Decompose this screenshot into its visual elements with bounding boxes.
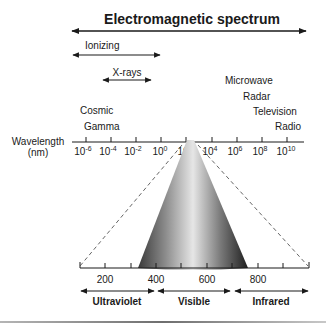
svg-text:1010: 1010: [277, 145, 296, 157]
microwave-label: Microwave: [225, 75, 273, 86]
diagram-title: Electromagnetic spectrum: [104, 11, 280, 27]
wavelength-axis-label: Wavelength: [12, 136, 64, 147]
infrared-label: Infrared: [252, 296, 289, 307]
svg-text:106: 106: [227, 145, 242, 157]
svg-text:108: 108: [252, 145, 267, 157]
cosmic-label: Cosmic: [80, 105, 113, 116]
svg-text:10-4: 10-4: [99, 145, 116, 157]
ionizing-label: Ionizing: [85, 40, 119, 51]
visible-zoom-tick-labels: 200 400 600 800: [97, 274, 267, 285]
svg-text:600: 600: [199, 274, 216, 285]
svg-text:10-2: 10-2: [124, 145, 141, 157]
wavelength-axis-unit: (nm): [28, 147, 49, 158]
xrays-label: X-rays: [113, 67, 142, 78]
radio-label: Radio: [275, 121, 302, 132]
svg-text:10-6: 10-6: [74, 145, 91, 157]
svg-text:200: 200: [97, 274, 114, 285]
svg-text:800: 800: [250, 274, 267, 285]
ultraviolet-label: Ultraviolet: [93, 296, 143, 307]
visible-light-cone: [138, 140, 248, 270]
radar-label: Radar: [243, 91, 271, 102]
bottom-rule: [0, 321, 326, 323]
svg-text:100: 100: [152, 145, 167, 157]
gamma-label: Gamma: [84, 121, 120, 132]
visible-label: Visible: [178, 296, 210, 307]
svg-text:104: 104: [202, 145, 217, 157]
television-label: Television: [253, 106, 297, 117]
svg-text:400: 400: [148, 274, 165, 285]
em-spectrum-diagram: Electromagnetic spectrum Ionizing X-rays…: [0, 0, 326, 324]
